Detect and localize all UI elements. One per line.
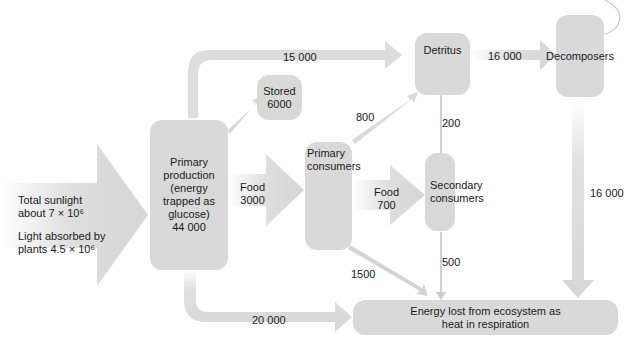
decomposers-box: Decomposers xyxy=(556,15,604,97)
flow-label-food-700: Food 700 xyxy=(374,186,399,212)
sunlight-total-label: Total sunlight about 7 × 10⁶ xyxy=(18,194,84,220)
flow-label-1500: 1500 xyxy=(351,268,375,281)
flow-label-food-3000: Food 3000 xyxy=(240,181,265,207)
primary-production-box: Primary production (energy trapped as gl… xyxy=(150,120,228,270)
sunlight-total-line2: about 7 × 10⁶ xyxy=(18,207,84,220)
sunlight-absorbed-line2: plants 4.5 × 10⁶ xyxy=(18,243,105,256)
flow-label-200: 200 xyxy=(442,117,460,130)
decomposers-label: Decomposers xyxy=(546,50,614,63)
sunlight-total-line1: Total sunlight xyxy=(18,194,84,207)
detritus-box: Detritus xyxy=(415,33,470,95)
flow-label-20000: 20 000 xyxy=(252,314,286,327)
secondary-consumers-box: Secondary consumers xyxy=(425,153,455,231)
flow-label-500: 500 xyxy=(442,256,460,269)
primary-consumers-box: Primary consumers xyxy=(305,142,352,250)
flow-label-16000-lost: 16 000 xyxy=(590,187,624,200)
flow-label-15000: 15 000 xyxy=(283,51,317,64)
stored-box: Stored 6000 xyxy=(257,75,302,120)
flow-label-16000-decomposers: 16 000 xyxy=(488,50,522,63)
sunlight-absorbed-label: Light absorbed by plants 4.5 × 10⁶ xyxy=(18,230,105,256)
sunlight-absorbed-line1: Light absorbed by xyxy=(18,230,105,243)
energy-lost-box: Energy lost from ecosystem as heat in re… xyxy=(353,300,618,335)
flow-label-800: 800 xyxy=(356,111,374,124)
